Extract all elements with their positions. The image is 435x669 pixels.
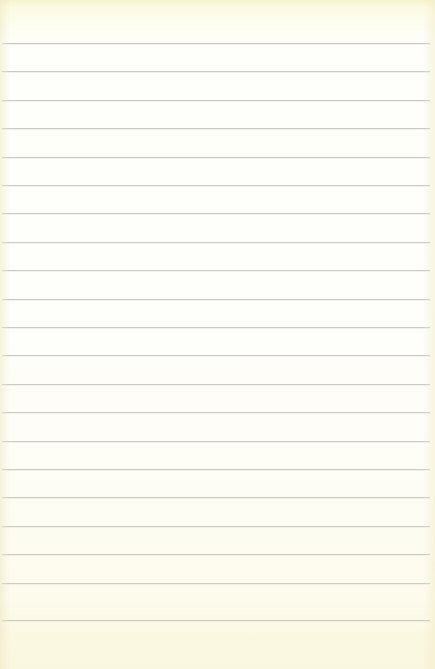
writing-area[interactable] xyxy=(0,0,435,669)
notepaper-sheet xyxy=(0,0,435,669)
